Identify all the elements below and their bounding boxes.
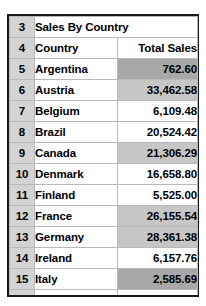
cell-country[interactable]: Ireland xyxy=(35,248,118,269)
cell-country[interactable]: France xyxy=(35,206,118,227)
table-row: 6Austria33,462.58 xyxy=(10,80,198,101)
sales-by-country-table: 3 Sales By Country 4 Country Total Sales… xyxy=(9,16,198,295)
row-header-9[interactable]: 9 xyxy=(10,143,35,164)
column-header-total-sales[interactable]: Total Sales xyxy=(118,38,198,59)
cell-country[interactable]: Canada xyxy=(35,143,118,164)
table-row: 8Brazil20,524.42 xyxy=(10,122,198,143)
cell-total-sales[interactable]: 33,462.58 xyxy=(118,80,198,101)
cell-country[interactable]: Finland xyxy=(35,185,118,206)
row-header-14[interactable]: 14 xyxy=(10,248,35,269)
table-body: 3 Sales By Country 4 Country Total Sales… xyxy=(10,17,198,296)
cell-total-sales[interactable]: 5,525.00 xyxy=(118,185,198,206)
cell-total-sales[interactable]: 6,109.48 xyxy=(118,101,198,122)
table-row: 15Italy2,585.69 xyxy=(10,269,198,290)
column-header-country[interactable]: Country xyxy=(35,38,118,59)
partial-row-header xyxy=(10,290,35,296)
row-header-7[interactable]: 7 xyxy=(10,101,35,122)
cell-total-sales[interactable]: 21,306.29 xyxy=(118,143,198,164)
row-header-3[interactable]: 3 xyxy=(10,17,35,38)
row-header-12[interactable]: 12 xyxy=(10,206,35,227)
cell-country[interactable]: Germany xyxy=(35,227,118,248)
column-header-row: 4 Country Total Sales xyxy=(10,38,198,59)
cell-total-sales[interactable]: 6,157.76 xyxy=(118,248,198,269)
title-row: 3 Sales By Country xyxy=(10,17,198,38)
row-header-6[interactable]: 6 xyxy=(10,80,35,101)
table-row: 12France26,155.54 xyxy=(10,206,198,227)
cell-country[interactable]: Italy xyxy=(35,269,118,290)
table-row: 7Belgium6,109.48 xyxy=(10,101,198,122)
table-row: 5Argentina762.60 xyxy=(10,59,198,80)
row-header-10[interactable]: 10 xyxy=(10,164,35,185)
cell-total-sales[interactable]: 28,361.38 xyxy=(118,227,198,248)
row-header-11[interactable]: 11 xyxy=(10,185,35,206)
row-header-15[interactable]: 15 xyxy=(10,269,35,290)
row-header-5[interactable]: 5 xyxy=(10,59,35,80)
cell-country[interactable]: Brazil xyxy=(35,122,118,143)
table-row: 13Germany28,361.38 xyxy=(10,227,198,248)
cell-total-sales[interactable]: 2,585.69 xyxy=(118,269,198,290)
cell-country[interactable]: Argentina xyxy=(35,59,118,80)
table-row: 10Denmark16,658.80 xyxy=(10,164,198,185)
cell-total-sales[interactable]: 26,155.54 xyxy=(118,206,198,227)
row-header-8[interactable]: 8 xyxy=(10,122,35,143)
cell-country[interactable]: Denmark xyxy=(35,164,118,185)
partial-cell-total-sales xyxy=(118,290,198,296)
cell-country[interactable]: Belgium xyxy=(35,101,118,122)
table-row: 9Canada21,306.29 xyxy=(10,143,198,164)
row-header-4[interactable]: 4 xyxy=(10,38,35,59)
table-row: 14Ireland6,157.76 xyxy=(10,248,198,269)
partial-cell-country xyxy=(35,290,118,296)
cell-total-sales[interactable]: 762.60 xyxy=(118,59,198,80)
cell-total-sales[interactable]: 16,658.80 xyxy=(118,164,198,185)
cell-country[interactable]: Austria xyxy=(35,80,118,101)
partial-row xyxy=(10,290,198,296)
table-row: 11Finland5,525.00 xyxy=(10,185,198,206)
sheet-title-cell[interactable]: Sales By Country xyxy=(35,17,198,38)
cell-total-sales[interactable]: 20,524.42 xyxy=(118,122,198,143)
row-header-13[interactable]: 13 xyxy=(10,227,35,248)
spreadsheet-frame: 3 Sales By Country 4 Country Total Sales… xyxy=(7,14,199,297)
